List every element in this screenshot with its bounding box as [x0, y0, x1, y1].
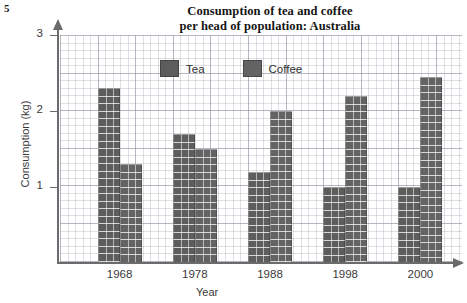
- bar-coffee-1998: [345, 96, 367, 263]
- y-axis-line: [57, 28, 59, 264]
- bar-chart-figure: 5 Consumption of tea and coffee per head…: [0, 0, 467, 303]
- bar-coffee-2000: [420, 77, 442, 263]
- bar-tea-1988: [248, 172, 270, 263]
- x-axis-line: [57, 262, 455, 264]
- bar-coffee-1978: [195, 149, 217, 263]
- legend-item-tea: Tea: [160, 60, 205, 77]
- x-tick-label-1998: 1998: [315, 268, 375, 280]
- bar-tea-1978: [173, 134, 195, 263]
- y-tick-label-3: 3: [25, 27, 43, 39]
- legend-swatch-tea: [160, 60, 179, 77]
- x-tick-label-1978: 1978: [165, 268, 225, 280]
- bar-tea-2000: [398, 187, 420, 263]
- chart-title-line-2: per head of population: Australia: [120, 19, 420, 34]
- bar-coffee-1988: [270, 111, 292, 263]
- chart-legend: TeaCoffee: [160, 60, 332, 77]
- y-tick-mark-3: [50, 35, 59, 36]
- x-tick-label-2000: 2000: [390, 268, 450, 280]
- bar-tea-1998: [323, 187, 345, 263]
- legend-label-tea: Tea: [186, 63, 205, 75]
- x-axis-title: Year: [196, 286, 218, 298]
- chart-title-line-1: Consumption of tea and coffee: [120, 4, 420, 19]
- legend-label-coffee: Coffee: [269, 63, 303, 75]
- x-axis-arrow-icon: [453, 258, 464, 268]
- bar-tea-1968: [98, 88, 120, 263]
- chart-title: Consumption of tea and coffee per head o…: [120, 4, 420, 34]
- y-tick-mark-1: [50, 187, 59, 188]
- legend-swatch-coffee: [243, 60, 262, 77]
- question-number: 5: [4, 2, 10, 14]
- x-tick-label-1968: 1968: [90, 268, 150, 280]
- x-tick-label-1988: 1988: [240, 268, 300, 280]
- y-tick-mark-2: [50, 111, 59, 112]
- y-axis-title: Consumption (kg): [19, 74, 31, 214]
- legend-item-coffee: Coffee: [243, 60, 303, 77]
- bar-coffee-1968: [120, 164, 142, 263]
